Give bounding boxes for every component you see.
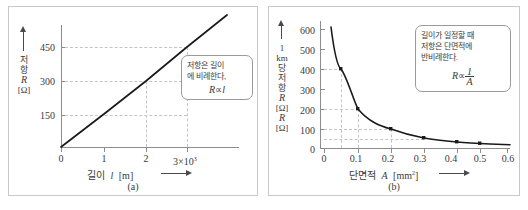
chart-panel-a: 저 항 R [Ω] 150 300 450 0 1 2 3×103	[8, 6, 258, 196]
figure-container: 저 항 R [Ω] 150 300 450 0 1 2 3×103	[0, 0, 528, 210]
panel-b-x-axis-title: 단면적 A [mm2]	[349, 167, 418, 182]
panel-b-x-title-arrow-shaft	[439, 173, 465, 174]
panel-a-x-symbol: l	[111, 170, 114, 181]
panel-a-plot-area	[9, 7, 259, 197]
panel-b-caption: (b)	[269, 181, 519, 192]
panel-b-x-unit: [mm	[393, 170, 412, 181]
panel-b-x-title-korean: 단면적	[349, 170, 376, 181]
panel-b-marker-2	[356, 107, 359, 110]
panel-b-callout-formula: R∝1A	[421, 67, 505, 87]
panel-a-x-title-arrow-shaft	[161, 173, 187, 174]
panel-a-callout: 저항은 길이 에 비례한다, R∝l	[181, 55, 253, 100]
panel-b-marker-3	[389, 127, 392, 130]
panel-b-x-symbol: A	[382, 170, 388, 181]
panel-a-x-axis-title: 길이 l [m]	[87, 167, 133, 182]
panel-b-x-unit-close: ]	[415, 170, 418, 181]
panel-b-marker-6	[478, 142, 481, 145]
panel-a-caption: (a)	[9, 181, 257, 192]
panel-b-marker-4	[422, 136, 425, 139]
panel-b-callout-line-2: 저항은 단면적에	[421, 41, 505, 52]
panel-a-formula-variable: l	[222, 84, 225, 95]
panel-a-callout-line-1: 저항은 길이	[187, 60, 247, 71]
panel-a-x-title-arrowhead	[186, 170, 192, 176]
panel-b-callout-line-3: 반비례한다.	[421, 52, 505, 63]
panel-b-marker-5	[455, 140, 458, 143]
panel-b-callout: 길이가 일정할 때 저항은 단면적에 반비례한다. R∝1A	[415, 25, 511, 92]
panel-a-x-unit: [m]	[119, 170, 133, 181]
panel-a-x-title-korean: 길이	[87, 170, 105, 181]
chart-panel-b: 1 km 당 저 항 R [Ω] R [Ω] 0 100 200 300 400…	[268, 6, 520, 196]
panel-a-callout-line-2: 에 비례한다,	[187, 71, 247, 82]
panel-a-callout-formula: R∝l	[187, 84, 247, 95]
panel-b-formula-fraction: 1A	[465, 67, 474, 87]
panel-b-callout-line-1: 길이가 일정할 때	[421, 30, 505, 41]
panel-b-marker-1	[339, 67, 342, 70]
panel-b-formula-relation: ∝	[458, 70, 465, 81]
panel-b-formula-denominator: A	[465, 77, 474, 87]
panel-b-x-title-arrowhead	[464, 170, 470, 176]
